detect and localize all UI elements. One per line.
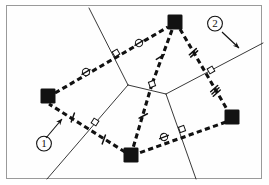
filled-square-node-right: [225, 110, 240, 125]
circle-slash-marker: [133, 37, 146, 48]
diagram-canvas: 12: [0, 0, 269, 185]
callout-label-text: 1: [41, 137, 47, 149]
dashed-edge: [152, 30, 172, 84]
square-crossing-marker: [207, 66, 215, 74]
circle-slash-marker: [80, 66, 93, 77]
dashed-edge: [180, 29, 228, 111]
square-crossing-marker: [148, 80, 155, 87]
square-crossing-marker: [91, 118, 99, 126]
thin-network-line: [128, 85, 166, 94]
diagram-svg: 12: [0, 0, 269, 185]
node-group: [41, 15, 240, 163]
thin-network-line: [89, 8, 128, 85]
square-crossing-marker: [178, 125, 185, 132]
callout-label-text: 2: [212, 17, 218, 29]
tick-marker-triple: [210, 85, 222, 96]
thin-network-line: [166, 43, 263, 94]
callout-group: 12: [37, 16, 239, 151]
dashed-edge: [49, 104, 125, 152]
filled-square-node-bottom: [124, 148, 139, 163]
filled-square-node-left: [41, 89, 56, 104]
thin-network-line: [47, 85, 128, 179]
circle-slash-marker: [158, 132, 170, 142]
callout-arrow: [222, 32, 239, 48]
callout-label: 1: [37, 136, 52, 151]
filled-square-node-top: [168, 15, 183, 30]
callout-label: 2: [208, 16, 223, 31]
callout-arrow: [46, 119, 62, 138]
